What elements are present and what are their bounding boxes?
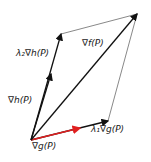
grad-h-label: ∇h(P) <box>8 95 32 105</box>
parallelogram-diagram <box>0 0 151 162</box>
grad-f-label: ∇f(P) <box>82 38 104 48</box>
lambda2-grad-h-label: λ₂∇h(P) <box>16 48 49 58</box>
grad-g-label: ∇g(P) <box>32 141 56 151</box>
edge-top <box>61 14 137 34</box>
grad-g-vector <box>31 128 80 140</box>
edge-right <box>108 14 137 121</box>
grad-f-vector <box>31 14 137 140</box>
grad-h-vector <box>31 74 51 140</box>
lambda1-grad-g-label: λ₁∇g(P) <box>91 124 124 134</box>
